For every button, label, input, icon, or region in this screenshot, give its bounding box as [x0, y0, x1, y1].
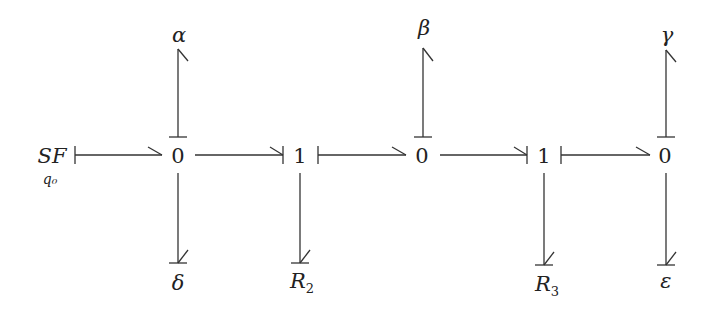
junction-1-first: 1 [293, 146, 306, 167]
bond-j1-to-alpha [169, 49, 188, 137]
bond-lines [0, 0, 710, 315]
element-r3: R3 [535, 274, 559, 298]
bond-j1-to-delta [169, 173, 188, 263]
bond-j2-to-j3 [318, 146, 406, 164]
junction-0-second: 0 [415, 146, 428, 167]
bond-j2-to-r2 [291, 173, 310, 263]
source-subscript-label: q₀ [43, 172, 58, 186]
element-gamma: γ [661, 25, 674, 46]
bond-j5-to-epsilon [657, 173, 676, 265]
junction-0-first: 0 [171, 146, 184, 167]
element-alpha: α [172, 25, 186, 46]
bond-j4-to-j5 [561, 146, 650, 164]
bond-j4-to-r3 [535, 173, 554, 265]
bond-j3-to-j4 [440, 146, 527, 164]
bond-j1-to-j2 [195, 146, 283, 164]
element-delta: δ [172, 273, 185, 294]
element-r2: R2 [290, 271, 314, 295]
source-sf-label: SF [38, 146, 67, 167]
junction-0-third: 0 [658, 146, 671, 167]
bond-j5-to-gamma [657, 50, 676, 137]
element-epsilon: ε [660, 271, 671, 292]
junction-1-second: 1 [537, 146, 550, 167]
element-beta: β [418, 18, 430, 39]
bond-j3-to-beta [414, 48, 433, 137]
bond-graph-diagram: SF q₀ 0 1 0 1 0 α β γ δ R2 R3 ε [0, 0, 710, 315]
bond-sf-to-j1 [75, 146, 162, 164]
